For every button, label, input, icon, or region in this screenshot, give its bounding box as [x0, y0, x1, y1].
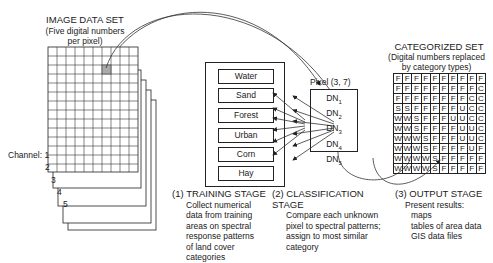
grid-cell: F [449, 144, 458, 154]
classification-line: pixel to spectral patterns; [286, 221, 392, 232]
grid-cell: F [439, 154, 448, 164]
training-stage-title: TRAINING STAGE [186, 188, 266, 199]
categorized-set-subtitle-2: by category types) [380, 62, 493, 72]
grid-row: SSFFFFFUCC [394, 104, 486, 114]
grid-row: WWWWSFFFFF [394, 154, 486, 164]
grid-row: WWWWSFFFFF [394, 164, 486, 174]
grid-cell: W [412, 164, 421, 174]
grid-cell: W [394, 124, 403, 134]
grid-cell: F [449, 74, 458, 84]
grid-cell: W [394, 154, 403, 164]
grid-cell: F [467, 84, 476, 94]
grid-cell: F [449, 84, 458, 94]
grid-cell: F [449, 124, 458, 134]
grid-cell: C [467, 104, 476, 114]
grid-cell: C [467, 114, 476, 124]
grid-cell: F [449, 134, 458, 144]
grid-cell: F [403, 94, 412, 104]
grid-cell: U [458, 134, 467, 144]
grid-cell: S [430, 164, 439, 174]
grid-row: WWWSFFFFUF [394, 144, 486, 154]
grid-cell: S [421, 134, 430, 144]
grid-cell: F [458, 74, 467, 84]
grid-cell: C [476, 134, 485, 144]
grid-cell: F [421, 104, 430, 114]
grid-row: FFFFFFFFCC [394, 94, 486, 104]
grid-cell: F [458, 154, 467, 164]
grid-cell: S [421, 144, 430, 154]
grid-cell: F [476, 144, 485, 154]
grid-cell: F [394, 84, 403, 94]
grid-cell: F [421, 74, 430, 84]
grid-cell: C [476, 114, 485, 124]
grid-cell: F [412, 74, 421, 84]
grid-cell: F [439, 114, 448, 124]
grid-cell: S [394, 104, 403, 114]
categorized-set-title: CATEGORIZED SET [385, 41, 493, 52]
grid-cell: F [458, 84, 467, 94]
grid-cell: F [476, 154, 485, 164]
output-stage-title: OUTPUT STAGE [409, 188, 482, 199]
grid-cell: W [421, 164, 430, 174]
grid-cell: F [394, 74, 403, 84]
output-item: GIS data files [395, 231, 493, 242]
output-stage-number: (3) [395, 188, 407, 199]
grid-cell: C [467, 94, 476, 104]
grid-cell: F [421, 124, 430, 134]
grid-cell: U [467, 124, 476, 134]
grid-cell: W [403, 164, 412, 174]
grid-cell: W [403, 124, 412, 134]
grid-cell: S [430, 154, 439, 164]
grid-cell: F [430, 94, 439, 104]
grid-cell: W [403, 114, 412, 124]
categorized-set-subtitle-1: (Digital numbers replaced [380, 52, 493, 62]
grid-cell: F [458, 94, 467, 104]
grid-cell: F [412, 104, 421, 114]
grid-cell: F [458, 144, 467, 154]
classification-stage-title: CLASSIFICATION STAGE [272, 188, 364, 210]
grid-row: FFFFFFFFFF [394, 74, 486, 84]
output-intro: Present results: [395, 200, 493, 211]
output-item: tables of area data [395, 221, 493, 232]
grid-cell: F [467, 164, 476, 174]
grid-cell: F [439, 134, 448, 144]
grid-cell: W [394, 114, 403, 124]
grid-cell: W [394, 164, 403, 174]
training-line: Collect numerical [186, 200, 282, 211]
grid-cell: F [421, 94, 430, 104]
grid-cell: F [412, 84, 421, 94]
grid-cell: F [476, 164, 485, 174]
grid-cell: F [430, 74, 439, 84]
classification-stage-number: (2) [272, 188, 284, 199]
grid-cell: F [439, 84, 448, 94]
grid-row: WWWSFFFUUC [394, 134, 486, 144]
classification-stage-description: (2) CLASSIFICATION STAGE Compare each un… [272, 189, 392, 252]
grid-cell: W [412, 154, 421, 164]
grid-cell: F [439, 124, 448, 134]
grid-cell: F [430, 134, 439, 144]
grid-cell: F [430, 144, 439, 154]
classification-line: assign to most similar [286, 231, 392, 242]
training-line: of land cover [186, 242, 282, 253]
grid-cell: W [403, 134, 412, 144]
grid-cell: W [412, 144, 421, 154]
grid-cell: F [449, 154, 458, 164]
training-line: data from training [186, 210, 282, 221]
training-line: areas on spectral [186, 221, 282, 232]
grid-cell: U [449, 114, 458, 124]
grid-cell: F [430, 114, 439, 124]
grid-cell: F [430, 84, 439, 94]
grid-cell: U [458, 114, 467, 124]
grid-cell: C [476, 84, 485, 94]
grid-cell: F [439, 144, 448, 154]
output-stage-description: (3) OUTPUT STAGE Present results: maps t… [395, 189, 493, 242]
grid-cell: F [421, 114, 430, 124]
grid-cell: F [467, 74, 476, 84]
categorized-grid: FFFFFFFFFF FFFFFFFFFC FFFFFFFFCC SSFFFFF… [393, 73, 486, 174]
grid-cell: F [430, 124, 439, 134]
grid-cell: F [439, 74, 448, 84]
grid-cell: W [403, 154, 412, 164]
training-line: categories [186, 252, 282, 263]
classification-line: category [286, 242, 392, 253]
grid-cell: U [458, 124, 467, 134]
